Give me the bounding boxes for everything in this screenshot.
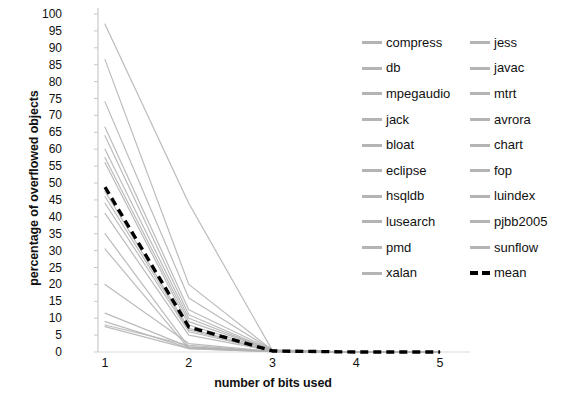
legend-label: hsqldb — [386, 189, 424, 203]
legend-item-xalan[interactable]: xalan — [362, 266, 470, 280]
legend-swatch-icon — [362, 41, 382, 44]
series-line-pmd — [105, 322, 440, 352]
legend-swatch-icon — [470, 41, 490, 44]
legend-label: mean — [494, 266, 527, 280]
x-axis-title: number of bits used — [105, 376, 441, 390]
legend-label: javac — [494, 61, 524, 75]
legend-swatch-icon — [470, 271, 490, 275]
legend-label: fop — [494, 164, 512, 178]
legend-swatch-icon — [470, 67, 490, 70]
legend-label: chart — [494, 138, 523, 152]
chart-legend: compressjessdbjavacmpegaudiomtrtjackavro… — [362, 30, 574, 286]
legend-label: db — [386, 61, 400, 75]
legend-item-compress[interactable]: compress — [362, 36, 470, 50]
legend-label: luindex — [494, 189, 535, 203]
legend-item-eclipse[interactable]: eclipse — [362, 164, 470, 178]
legend-label: lusearch — [386, 215, 435, 229]
legend-swatch-icon — [470, 220, 490, 223]
legend-swatch-icon — [470, 118, 490, 121]
legend-swatch-icon — [362, 246, 382, 249]
legend-item-javac[interactable]: javac — [470, 61, 574, 75]
legend-item-luindex[interactable]: luindex — [470, 189, 574, 203]
legend-swatch-icon — [362, 67, 382, 70]
legend-item-lusearch[interactable]: lusearch — [362, 215, 470, 229]
legend-swatch-icon — [470, 195, 490, 198]
legend-label: mpegaudio — [386, 87, 450, 101]
legend-label: sunflow — [494, 241, 538, 255]
legend-label: xalan — [386, 266, 417, 280]
legend-label: eclipse — [386, 164, 426, 178]
chart-figure: percentage of overflowed objects 1009590… — [0, 0, 580, 402]
legend-item-pjbb2005[interactable]: pjbb2005 — [470, 215, 574, 229]
legend-item-jack[interactable]: jack — [362, 113, 470, 127]
legend-swatch-icon — [470, 246, 490, 249]
legend-swatch-icon — [362, 92, 382, 95]
legend-item-mtrt[interactable]: mtrt — [470, 87, 574, 101]
legend-swatch-icon — [470, 92, 490, 95]
legend-item-db[interactable]: db — [362, 61, 470, 75]
legend-item-chart[interactable]: chart — [470, 138, 574, 152]
series-line-lusearch — [105, 313, 440, 352]
x-axis-tick: 4 — [336, 356, 376, 370]
legend-swatch-icon — [362, 169, 382, 172]
series-line-xalan — [105, 327, 440, 352]
legend-label: mtrt — [494, 87, 516, 101]
legend-label: pmd — [386, 241, 411, 255]
series-line-mpegaudio — [105, 325, 440, 352]
legend-item-mean[interactable]: mean — [470, 266, 574, 280]
legend-item-sunflow[interactable]: sunflow — [470, 241, 574, 255]
legend-swatch-icon — [362, 272, 382, 275]
legend-label: avrora — [494, 113, 531, 127]
legend-label: bloat — [386, 138, 414, 152]
legend-swatch-icon — [362, 144, 382, 147]
x-axis-tick: 1 — [85, 356, 125, 370]
legend-item-hsqldb[interactable]: hsqldb — [362, 189, 470, 203]
legend-swatch-icon — [362, 220, 382, 223]
x-axis-tick: 3 — [253, 356, 293, 370]
legend-label: jess — [494, 36, 517, 50]
series-line-hsqldb — [105, 284, 440, 352]
legend-swatch-icon — [362, 118, 382, 121]
legend-item-avrora[interactable]: avrora — [470, 113, 574, 127]
x-axis-tick: 2 — [169, 356, 209, 370]
legend-item-mpegaudio[interactable]: mpegaudio — [362, 87, 470, 101]
legend-swatch-icon — [470, 144, 490, 147]
x-axis-tick: 5 — [420, 356, 460, 370]
legend-label: compress — [386, 36, 442, 50]
legend-label: pjbb2005 — [494, 215, 548, 229]
legend-item-fop[interactable]: fop — [470, 164, 574, 178]
legend-label: jack — [386, 113, 409, 127]
legend-item-pmd[interactable]: pmd — [362, 241, 470, 255]
legend-item-jess[interactable]: jess — [470, 36, 574, 50]
legend-swatch-icon — [470, 169, 490, 172]
legend-swatch-icon — [362, 195, 382, 198]
legend-item-bloat[interactable]: bloat — [362, 138, 470, 152]
